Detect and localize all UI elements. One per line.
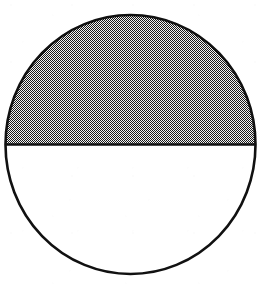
figure-canvas	[0, 0, 267, 284]
shaded-region-fill	[0, 0, 267, 145]
shaded-upper-half	[0, 0, 267, 145]
unshaded-lower-half	[0, 145, 267, 284]
unshaded-region-fill	[0, 145, 267, 284]
half-shaded-circle-figure	[0, 0, 267, 284]
